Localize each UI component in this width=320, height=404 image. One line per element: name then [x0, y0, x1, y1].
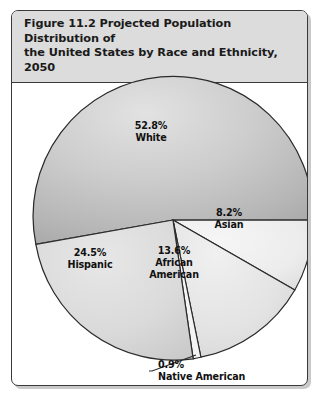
pie-label-white: 52.8% White [112, 120, 190, 144]
figure-root: Figure 11.2 Projected Population Distrib… [0, 0, 320, 404]
pie-slice-hispanic [36, 220, 193, 360]
pie-chart: 52.8% White 8.2% Asian 13.6% African Ame… [12, 49, 308, 385]
pie-label-hispanic: 24.5% Hispanic [50, 247, 130, 271]
pie-label-asian: 8.2% Asian [194, 207, 264, 231]
pie-label-native-american: 0.9% Native American [158, 359, 298, 383]
pie-slice-white [33, 76, 308, 244]
figure-panel: Figure 11.2 Projected Population Distrib… [11, 10, 308, 386]
pie-label-african-american: 13.6% African American [136, 245, 212, 281]
